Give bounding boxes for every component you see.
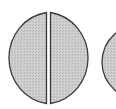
right-semicircle (51, 13, 89, 104)
left-semicircle (9, 13, 47, 104)
partial-circle (102, 22, 116, 102)
split-circle-diagram (0, 0, 116, 109)
